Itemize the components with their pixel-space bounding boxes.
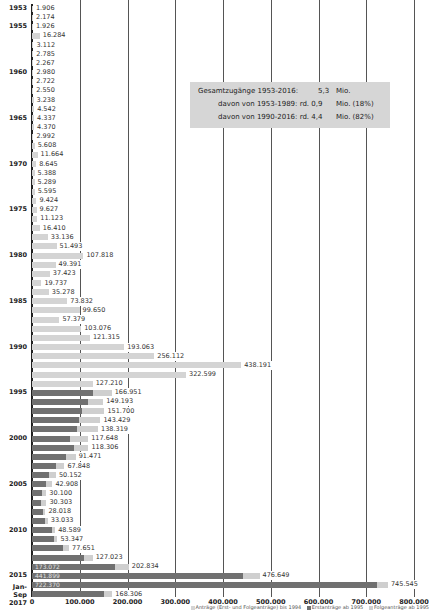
total-value-label: 35.278 [51, 288, 76, 297]
bar-row: 127.210 [0, 379, 431, 388]
bar-row: 1980107.818 [0, 251, 431, 260]
total-value-label: 2.174 [35, 13, 56, 22]
x-tick-label: 200.000 [113, 598, 143, 606]
bar-follow-up-applications [74, 445, 88, 451]
total-value-label: 67.848 [66, 462, 91, 471]
bar-applications-until-1994 [32, 253, 83, 259]
total-value-label: 57.379 [61, 315, 86, 324]
bar-first-applications [32, 500, 41, 506]
total-value-label: 51.493 [59, 242, 84, 251]
total-value-label: 745.545 [390, 580, 419, 589]
bar-row: 53.347 [0, 535, 431, 544]
bar-row: 19759.627 [0, 205, 431, 214]
total-value-label: 28.018 [47, 507, 72, 516]
bar-row: 149.193 [0, 397, 431, 406]
year-label: 2000 [0, 434, 27, 443]
bar-follow-up-applications [46, 481, 53, 487]
total-value-label: 2.980 [35, 68, 56, 77]
total-value-label: 1.906 [35, 4, 56, 13]
bar-row: 200542.908 [0, 480, 431, 489]
bar-row: 121.315 [0, 333, 431, 342]
bar-applications-until-1994 [32, 326, 81, 332]
bar-applications-until-1994 [32, 97, 34, 103]
bar-follow-up-applications [42, 490, 46, 496]
bar-follow-up-applications [104, 591, 112, 597]
asylum-applications-chart: 19531.9062.17419551.92616.2843.1122.7852… [0, 0, 431, 613]
bar-follow-up-applications [41, 500, 46, 506]
bar-applications-until-1994 [32, 70, 33, 76]
bar-follow-up-applications [93, 390, 112, 396]
bar-follow-up-applications [377, 582, 388, 588]
bar-row: 138.319 [0, 425, 431, 434]
bar-applications-until-1994 [32, 152, 38, 158]
year-label: 1955 [0, 22, 27, 31]
bar-follow-up-applications [49, 472, 56, 478]
bar-follow-up-applications [52, 527, 55, 533]
bar-follow-up-applications [45, 518, 48, 524]
bar-row: 151.700 [0, 407, 431, 416]
bar-applications-until-1994 [32, 243, 57, 249]
bar-row: 37.423 [0, 269, 431, 278]
bar-applications-until-1994 [32, 134, 33, 140]
total-value-label: 42.908 [54, 480, 79, 489]
bar-first-applications [32, 445, 74, 451]
total-value-label: 77.651 [71, 544, 96, 553]
total-value-label: 438.191 [243, 361, 272, 370]
bar-first-applications [32, 426, 77, 432]
bar-applications-until-1994 [32, 353, 154, 359]
bar-first-applications [32, 454, 66, 460]
bar-row: 127.023 [0, 553, 431, 562]
bar-follow-up-applications [54, 536, 58, 542]
first-applications-label: 722.370 [35, 580, 60, 589]
bar-follow-up-applications [70, 436, 89, 442]
bar-row: 322.599 [0, 370, 431, 379]
bar-first-applications [32, 490, 42, 496]
total-value-label: 11.664 [40, 150, 65, 159]
bar-applications-until-1994 [32, 51, 33, 57]
x-tick-label: 0 [30, 598, 35, 606]
bar-row: 2.992 [0, 132, 431, 141]
bar-follow-up-applications [243, 573, 260, 579]
total-value-label: 118.306 [90, 443, 119, 452]
bar-row: 57.379 [0, 315, 431, 324]
total-value-label: 8.645 [38, 160, 59, 169]
bar-row: 77.651 [0, 544, 431, 553]
bar-row: 16.284 [0, 31, 431, 40]
bar-row: 30.100 [0, 489, 431, 498]
year-label: 1990 [0, 343, 27, 352]
year-label: 2005 [0, 480, 27, 489]
bar-follow-up-applications [79, 417, 100, 423]
total-value-label: 33.033 [50, 516, 75, 525]
total-value-label: 143.429 [102, 416, 131, 425]
bar-row: 5.595 [0, 187, 431, 196]
total-value-label: 5.388 [37, 169, 58, 178]
bar-row: 19.737 [0, 279, 431, 288]
bar-first-applications [32, 390, 93, 396]
bar-applications-until-1994 [32, 362, 241, 368]
bar-applications-until-1994 [32, 372, 186, 378]
annotation-line1-value: 5,3 [318, 87, 329, 95]
bar-first-applications [32, 463, 56, 469]
total-value-label: 9.627 [39, 205, 60, 214]
total-value-label: 3.238 [36, 96, 57, 105]
total-value-label: 4.337 [36, 114, 57, 123]
year-label: 1985 [0, 297, 27, 306]
bar-first-applications [32, 582, 377, 588]
total-value-label: 2.722 [35, 77, 56, 86]
bar-first-applications [32, 545, 63, 551]
bar-applications-until-1994 [32, 124, 34, 130]
chart-legend: Anträge (Erst- und Folgeanträge) bis 199… [187, 604, 430, 610]
bar-applications-until-1994 [32, 307, 80, 313]
bar-applications-until-1994 [32, 225, 40, 231]
total-value-label: 11.123 [39, 214, 64, 223]
bar-applications-until-1994 [32, 179, 35, 185]
bar-first-applications [32, 527, 52, 533]
total-value-label: 33.136 [50, 233, 75, 242]
bar-applications-until-1994 [32, 189, 35, 195]
bar-applications-until-1994 [32, 115, 34, 121]
bar-follow-up-applications [63, 545, 69, 551]
total-value-label: 30.100 [48, 489, 73, 498]
bar-applications-until-1994 [32, 280, 41, 286]
bar-row: 2.785 [0, 50, 431, 59]
bar-row: 2015441.899476.649 [0, 571, 431, 580]
